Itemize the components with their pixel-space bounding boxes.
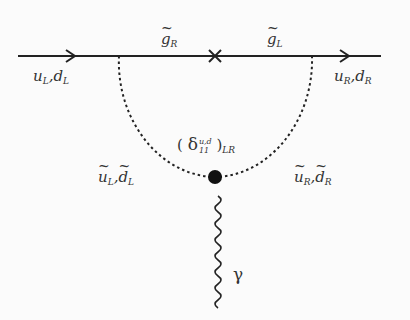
label-mass-insertion: ( δu,d11 )LR <box>177 136 235 155</box>
label-gluino-r: gR <box>161 32 177 49</box>
feynman-diagram <box>0 0 410 320</box>
label-incoming-quarks: uL,dL <box>33 69 69 86</box>
label-squark-right: uR,dR <box>294 170 332 187</box>
vertex-dot <box>208 170 222 184</box>
squark-loop <box>119 56 312 177</box>
label-squark-left: uL,dL <box>98 170 134 187</box>
label-photon: γ <box>233 266 243 283</box>
label-outgoing-quarks: uR,dR <box>334 69 372 86</box>
photon-line <box>215 196 221 308</box>
label-gluino-l: gL <box>267 32 283 49</box>
